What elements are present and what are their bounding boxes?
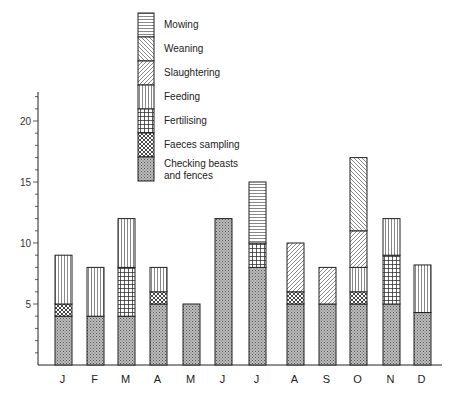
- bar-segment: [249, 243, 266, 267]
- bar-segment: [319, 304, 336, 365]
- bar-segment: [150, 304, 167, 365]
- legend-item: Feeding: [138, 85, 200, 109]
- x-tick-label: J: [60, 373, 66, 385]
- bar-segment: [118, 267, 135, 316]
- legend-label: and fences: [164, 170, 213, 181]
- x-tick-label: F: [91, 373, 98, 385]
- legend-label: Slaughtering: [164, 67, 220, 78]
- bar-6: [249, 182, 266, 365]
- bar-segment: [414, 265, 431, 313]
- bar-segment: [383, 219, 400, 256]
- bar-segment: [287, 243, 304, 292]
- legend-item: Mowing: [138, 13, 198, 37]
- bar-segment: [87, 267, 104, 316]
- legend-label: Fertilising: [164, 115, 207, 126]
- bar-8: [319, 267, 336, 365]
- bar-segment: [383, 304, 400, 365]
- bar-10: [383, 219, 400, 365]
- x-tick-label: N: [387, 373, 395, 385]
- x-tick-label: S: [323, 373, 330, 385]
- legend-item: Faeces sampling: [138, 133, 240, 157]
- bar-0: [55, 255, 72, 365]
- bar-segment: [183, 304, 200, 365]
- y-tick-label: 20: [20, 116, 32, 127]
- x-tick-label: J: [220, 373, 226, 385]
- bar-segment: [55, 255, 72, 304]
- bar-segment: [55, 304, 72, 316]
- bar-segment: [414, 313, 431, 365]
- bar-7: [287, 243, 304, 365]
- bar-segment: [350, 292, 367, 304]
- bar-segment: [350, 304, 367, 365]
- x-tick-label: J: [254, 373, 260, 385]
- bar-1: [87, 267, 104, 365]
- bar-segment: [287, 292, 304, 304]
- legend-item: Weaning: [138, 37, 203, 61]
- legend-swatch: [138, 37, 154, 61]
- legend-swatch: [138, 13, 154, 37]
- bars: [55, 158, 431, 365]
- y-axis: 5101520: [20, 92, 38, 365]
- legend-swatch: [138, 157, 154, 181]
- bar-segment: [383, 255, 400, 304]
- bar-segment: [350, 231, 367, 268]
- bar-9: [350, 158, 367, 365]
- legend-swatch: [138, 85, 154, 109]
- bar-segment: [55, 316, 72, 365]
- bar-segment: [87, 316, 104, 365]
- legend-swatch: [138, 61, 154, 85]
- legend-item: Checking beastsand fences: [138, 157, 238, 181]
- legend-item: Slaughtering: [138, 61, 220, 85]
- bar-segment: [249, 182, 266, 243]
- bar-5: [215, 219, 232, 365]
- legend-label: Mowing: [164, 19, 198, 30]
- y-tick-label: 15: [20, 177, 32, 188]
- legend-item: Fertilising: [138, 109, 207, 133]
- x-tick-label: D: [418, 373, 426, 385]
- y-tick-label: 10: [20, 238, 32, 249]
- bar-segment: [287, 304, 304, 365]
- y-tick-label: 5: [25, 299, 31, 310]
- bar-segment: [350, 158, 367, 231]
- legend-label: Checking beasts: [164, 158, 238, 169]
- legend-swatch: [138, 133, 154, 157]
- legend-label: Feeding: [164, 91, 200, 102]
- x-tick-label: M: [186, 373, 195, 385]
- bar-segment: [150, 292, 167, 304]
- bar-segment: [150, 267, 167, 291]
- bar-segment: [319, 267, 336, 304]
- bar-segment: [118, 316, 135, 365]
- bar-segment: [215, 219, 232, 365]
- legend-label: Faeces sampling: [164, 139, 240, 150]
- bar-4: [183, 304, 200, 365]
- x-tick-label: A: [291, 373, 299, 385]
- bar-segment: [249, 267, 266, 365]
- stacked-bar-chart: 5101520 JFMAMJJASOND MowingWeaningSlaugh…: [0, 0, 457, 393]
- bar-3: [150, 267, 167, 365]
- x-tick-label: A: [154, 373, 162, 385]
- x-tick-label: M: [121, 373, 130, 385]
- legend: MowingWeaningSlaughteringFeedingFertilis…: [138, 13, 240, 181]
- bar-11: [414, 265, 431, 365]
- legend-swatch: [138, 109, 154, 133]
- bar-segment: [350, 267, 367, 291]
- bar-segment: [118, 219, 135, 268]
- x-tick-label: O: [353, 373, 362, 385]
- bar-2: [118, 219, 135, 365]
- x-axis: JFMAMJJASOND: [38, 365, 442, 385]
- legend-label: Weaning: [164, 43, 203, 54]
